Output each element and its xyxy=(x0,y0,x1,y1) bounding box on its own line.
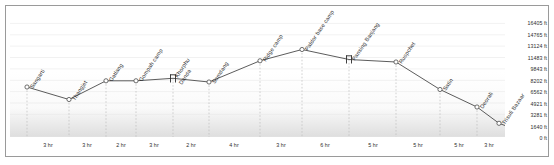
x-axis-tick: 4 hr xyxy=(229,142,239,148)
y-axis-tick: 0 ft xyxy=(539,136,547,141)
y-axis-tick: 9843 ft xyxy=(530,67,547,72)
x-axis-tick: 5 hr xyxy=(368,142,378,148)
y-axis-tick: 1640 ft xyxy=(530,125,547,130)
y-axis-tick: 6562 ft xyxy=(530,90,547,95)
y-axis-tick: 13124 ft xyxy=(527,44,547,49)
y-axis-tick: 3281 ft xyxy=(530,113,547,118)
x-axis-tick: 3 hr xyxy=(82,142,92,148)
x-axis-tick: 3 hr xyxy=(149,142,159,148)
elevation-profile-chart: Sangarti Thangjet Gatlang Gompah camp Kh… xyxy=(0,0,554,165)
y-axis-tick: 8202 ft xyxy=(530,79,547,84)
elevation-line-svg xyxy=(10,12,505,137)
chart-plot-area: Sangarti Thangjet Gatlang Gompah camp Kh… xyxy=(10,12,505,137)
y-axis-tick: 14765 ft xyxy=(527,33,547,38)
elevation-axis: 16405 ft 14765 ft 13124 ft 11483 ft 9843… xyxy=(506,12,550,142)
y-axis-tick: 11483 ft xyxy=(528,56,547,61)
x-axis-tick: 5 hr xyxy=(413,142,423,148)
x-axis-tick: 2 hr xyxy=(186,142,196,148)
x-axis-tick: 3 hr xyxy=(484,142,494,148)
y-axis-tick: 16405 ft xyxy=(527,21,547,26)
x-axis-tick: 5 hr xyxy=(454,142,464,148)
x-axis-tick: 6 hr xyxy=(320,142,330,148)
duration-axis: 3 hr 3 hr 2 hr 3 hr 2 hr 4 hr 3 hr 6 hr … xyxy=(10,142,505,154)
x-axis-tick: 3 hr xyxy=(43,142,53,148)
y-axis-tick: 4921 ft xyxy=(530,102,547,107)
x-axis-tick: 3 hr xyxy=(276,142,286,148)
x-axis-tick: 2 hr xyxy=(116,142,126,148)
